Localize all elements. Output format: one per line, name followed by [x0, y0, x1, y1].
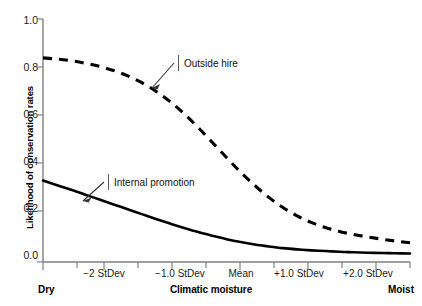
chart-figure: Likelihood of conservation rates 1.0 0.8… [0, 0, 422, 306]
annotation-arrows [83, 63, 174, 203]
series-line-outside-hire [43, 58, 410, 243]
plot-area [0, 0, 422, 306]
x-axis-ticks [43, 262, 410, 270]
series-line-internal-promotion [43, 181, 410, 254]
annotation-arrow-outside-hire [152, 63, 174, 88]
series-lines [43, 58, 410, 254]
axes [37, 19, 410, 270]
y-axis-ticks [37, 19, 43, 262]
